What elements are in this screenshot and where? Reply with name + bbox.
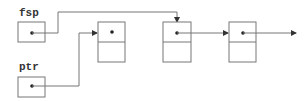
fsp-label: fsp: [19, 7, 39, 19]
list-node-3: [229, 22, 256, 62]
list-node-2: [163, 22, 191, 62]
node-1-next-dot: [110, 30, 114, 34]
ptr-label: ptr: [19, 61, 39, 73]
list-node-1: [98, 22, 125, 62]
linked-list-diagram: fsp ptr: [0, 0, 308, 101]
